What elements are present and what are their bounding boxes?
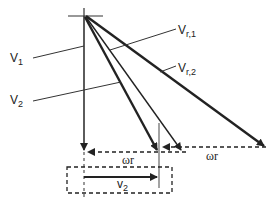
label-v2-main: V — [10, 93, 18, 107]
label-v2-box: v2 — [117, 178, 128, 193]
vr2-leader — [160, 66, 176, 72]
v1-leader — [33, 46, 84, 58]
label-omega-r-2: ωr — [206, 150, 218, 162]
label-vr1-main: V — [178, 23, 186, 37]
velocity-diagram — [0, 0, 272, 210]
label-v1-main: V — [10, 51, 18, 65]
label-v1-sub: 1 — [18, 57, 23, 67]
label-vr2-main: V — [178, 61, 186, 75]
label-vr2-sub: r,2 — [186, 67, 196, 77]
vr1-vector — [86, 17, 181, 150]
label-v1: V1 — [10, 52, 23, 67]
label-omega-r-1: ωr — [122, 154, 134, 166]
label-v2-sub: 2 — [18, 99, 23, 109]
v2-leader — [33, 82, 121, 101]
label-v2-box-sub: 2 — [123, 183, 128, 193]
label-v2: V2 — [10, 94, 23, 109]
label-vr1-sub: r,1 — [186, 29, 196, 39]
label-vr2: Vr,2 — [178, 62, 196, 77]
v2-abs-vector — [85, 17, 157, 150]
label-vr1: Vr,1 — [178, 24, 196, 39]
vr2-vector — [86, 16, 264, 146]
